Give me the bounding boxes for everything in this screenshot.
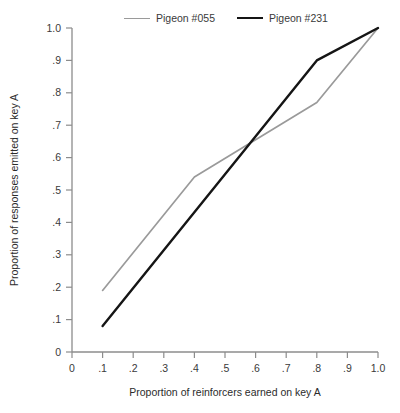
black-line-swatch-icon (237, 17, 263, 19)
y-tick-label: .3 (52, 248, 61, 260)
y-tick-label: .5 (52, 184, 61, 196)
legend-label-pigeon-231: Pigeon #231 (269, 13, 328, 24)
x-axis-ticks: 0.1.2.3.4.5.6.7.8.91.0 (69, 352, 385, 374)
y-tick-label: .4 (52, 216, 61, 228)
y-tick-label: .1 (52, 313, 61, 325)
x-tick-label: 0 (69, 362, 75, 374)
legend-label-pigeon-055: Pigeon #055 (156, 13, 215, 24)
x-tick-label: .8 (312, 362, 321, 374)
legend-entry-pigeon-055: Pigeon #055 (124, 13, 215, 24)
y-tick-label: .2 (52, 281, 61, 293)
y-axis-title: Proportion of responses emitted on key A (8, 94, 20, 286)
y-tick-label: .6 (52, 151, 61, 163)
x-tick-label: 1.0 (371, 362, 386, 374)
x-tick-label: .7 (282, 362, 291, 374)
x-tick-label: .5 (221, 362, 230, 374)
x-tick-label: .3 (159, 362, 168, 374)
y-tick-label: .9 (52, 54, 61, 66)
x-tick-label: .2 (129, 362, 138, 374)
legend-entry-pigeon-231: Pigeon #231 (237, 13, 328, 24)
chart-legend: Pigeon #055 Pigeon #231 (124, 13, 328, 24)
y-tick-label: .8 (52, 86, 61, 98)
x-tick-label: .4 (190, 362, 199, 374)
chart-plot-area: 0.1.2.3.4.5.6.7.8.91.0 0.1.2.3.4.5.6.7.8… (0, 0, 400, 413)
gray-line-swatch-icon (124, 18, 150, 19)
y-axis-ticks: 0.1.2.3.4.5.6.7.8.91.0 (46, 22, 72, 358)
y-tick-label: 0 (55, 346, 61, 358)
x-tick-label: .6 (251, 362, 260, 374)
x-axis-title: Proportion of reinforcers earned on key … (129, 386, 320, 398)
series-line-pigeon-055 (103, 28, 378, 290)
x-tick-label: .1 (98, 362, 107, 374)
x-tick-label: .9 (343, 362, 352, 374)
y-tick-label: 1.0 (46, 22, 61, 34)
series-line-pigeon-231 (103, 28, 378, 326)
y-tick-label: .7 (52, 119, 61, 131)
chart-figure: Pigeon #055 Pigeon #231 0.1.2.3.4.5.6.7.… (0, 0, 400, 413)
